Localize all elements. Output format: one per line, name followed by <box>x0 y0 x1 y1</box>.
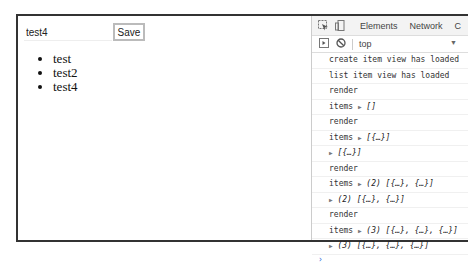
dropdown-caret-icon: ▼ <box>450 39 457 49</box>
app-page: Save test test2 test4 <box>18 16 310 240</box>
console-message[interactable]: items ▶ [{…}] <box>312 131 468 147</box>
console-message: render <box>312 208 468 224</box>
browser-window: Save test test2 test4 Elements Network C <box>16 14 468 242</box>
console-message: create item view has loaded <box>312 53 468 69</box>
console-message-text: create item view has loaded <box>329 55 459 64</box>
console-message: render <box>312 84 468 100</box>
devtools-tabbar: Elements Network C <box>312 16 468 36</box>
console-label: items <box>329 102 358 111</box>
console-label: items <box>329 179 358 188</box>
context-value: top <box>359 39 372 49</box>
console-prompt[interactable]: › <box>312 255 468 265</box>
tab-console[interactable]: C <box>455 21 462 31</box>
console-label: items <box>329 226 358 235</box>
console-object-preview[interactable]: (3) [{…}, {…}, {…}] <box>333 241 429 250</box>
inspect-element-icon[interactable] <box>318 20 329 31</box>
console-message[interactable]: items ▶ [] <box>312 100 468 116</box>
tab-elements[interactable]: Elements <box>360 21 398 31</box>
console-message-text: render <box>329 210 358 219</box>
console-message[interactable]: items ▶ (3) [{…}, {…}, {…}] <box>312 224 468 240</box>
context-selector[interactable]: top ▼ <box>359 39 457 49</box>
console-object-preview[interactable]: [] <box>362 102 376 111</box>
console-message: list item view has loaded <box>312 69 468 85</box>
console-message[interactable]: ▶ (2) [{…}, {…}] <box>312 193 468 209</box>
console-object-preview[interactable]: (3) [{…}, {…}, {…}] <box>362 226 458 235</box>
console-message-text: render <box>329 164 358 173</box>
list-item: test <box>53 52 78 66</box>
console-message-text: list item view has loaded <box>329 71 449 80</box>
console-output: create item view has loadedlist item vie… <box>312 53 468 265</box>
console-toolbar: top ▼ <box>312 36 468 53</box>
console-message-text: render <box>329 117 358 126</box>
list-item: test4 <box>53 80 78 94</box>
item-input[interactable] <box>24 24 112 41</box>
console-sidebar-icon[interactable] <box>318 38 329 50</box>
devtools-panel: Elements Network C top ▼ create item vie… <box>311 16 468 240</box>
console-object-preview[interactable]: (2) [{…}, {…}] <box>362 179 434 188</box>
console-message: render <box>312 115 468 131</box>
device-toolbar-icon[interactable] <box>335 20 346 31</box>
console-message: render <box>312 162 468 178</box>
console-message-text: render <box>329 86 358 95</box>
console-message[interactable]: items ▶ (2) [{…}, {…}] <box>312 177 468 193</box>
save-button[interactable]: Save <box>113 23 145 41</box>
console-message[interactable]: ▶ (3) [{…}, {…}, {…}] <box>312 239 468 255</box>
console-object-preview[interactable]: [{…}] <box>333 148 362 157</box>
tab-network[interactable]: Network <box>410 21 443 31</box>
console-object-preview[interactable]: (2) [{…}, {…}] <box>333 195 405 204</box>
console-message[interactable]: ▶ [{…}] <box>312 146 468 162</box>
item-list: test test2 test4 <box>18 52 78 94</box>
console-label: items <box>329 133 358 142</box>
toolbar-divider <box>352 39 353 50</box>
list-item: test2 <box>53 66 78 80</box>
clear-console-icon[interactable] <box>335 38 346 50</box>
console-object-preview[interactable]: [{…}] <box>362 133 391 142</box>
